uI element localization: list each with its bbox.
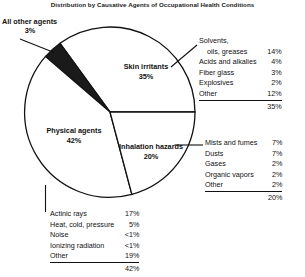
breakdown-skin-irritants: Solvents, oils, greases 14% Acids and al… (199, 36, 282, 112)
breakdown-row-value: 12% (262, 89, 282, 100)
breakdown-row-value: 5% (119, 220, 139, 231)
breakdown-row-label: Organic vapors (205, 170, 262, 181)
breakdown-row-label: Explosives (199, 78, 262, 89)
table-row: Gases 2% (205, 159, 282, 170)
table-row: Acids and alkalies 4% (199, 57, 282, 68)
table-row: Explosives 2% (199, 78, 282, 89)
breakdown-row-value: 14% (262, 47, 282, 58)
breakdown-total-label (50, 262, 119, 274)
breakdown-row-value (262, 36, 282, 47)
slice-label-physical-agents-value: 42% (33, 136, 115, 146)
callout-all-other-agents-name: All other agents (2, 17, 72, 26)
slice-label-physical-agents: Physical agents 42% (33, 126, 115, 145)
breakdown-row-label: Other (199, 89, 262, 100)
breakdown-row-label: Other (205, 180, 262, 191)
breakdown-row-value: <1% (119, 230, 139, 241)
slice-label-inhalation-hazards-name: Inhalation hazards (113, 142, 189, 152)
breakdown-row-label: Actinic rays (50, 209, 119, 220)
callout-label-all-other-agents: All other agents 3% (2, 17, 72, 36)
breakdown-total-label (199, 100, 262, 112)
breakdown-row-value: 17% (119, 209, 139, 220)
table-row: Dusts 7% (205, 149, 282, 160)
table-row: Other 19% (50, 251, 139, 262)
breakdown-total-value: 42% (119, 262, 139, 274)
breakdown-row-value: 7% (262, 149, 282, 160)
breakdown-row-value: 2% (262, 159, 282, 170)
breakdown-row-value: 2% (262, 78, 282, 89)
slice-label-skin-irritants-value: 35% (106, 72, 186, 82)
breakdown-skin-irritants-table: Solvents, oils, greases 14% Acids and al… (199, 36, 282, 112)
breakdown-row-value: 2% (262, 180, 282, 191)
breakdown-row-label: Dusts (205, 149, 262, 160)
breakdown-row-value: 19% (119, 251, 139, 262)
table-row: Organic vapors 2% (205, 170, 282, 181)
slice-label-physical-agents-name: Physical agents (33, 126, 115, 136)
breakdown-row-value: 2% (262, 170, 282, 181)
breakdown-row-label: Noise (50, 230, 119, 241)
breakdown-physical-agents-table: Actinic rays 17% Heat, cold, pressure 5%… (50, 209, 139, 275)
breakdown-row-value: 4% (262, 57, 282, 68)
table-row: Heat, cold, pressure 5% (50, 220, 139, 231)
breakdown-total-label (205, 191, 262, 203)
breakdown-total-row: 20% (205, 191, 282, 203)
breakdown-row-value: 7% (262, 138, 282, 149)
slice-label-skin-irritants: Skin irritants 35% (106, 62, 186, 81)
breakdown-row-label: Acids and alkalies (199, 57, 262, 68)
table-row: Solvents, (199, 36, 282, 47)
breakdown-row-label: Other (50, 251, 119, 262)
breakdown-inhalation-hazards: Mists and fumes 7% Dusts 7% Gases 2% Org… (205, 138, 282, 204)
table-row: Other 12% (199, 89, 282, 100)
breakdown-row-label: Solvents, (199, 36, 262, 47)
table-row: oils, greases 14% (199, 47, 282, 58)
breakdown-row-label: Ionizing radiation (50, 241, 119, 252)
callout-all-other-agents-value: 3% (2, 26, 72, 35)
slice-label-inhalation-hazards-value: 20% (113, 152, 189, 162)
breakdown-row-label: oils, greases (199, 47, 262, 58)
table-row: Noise <1% (50, 230, 139, 241)
slice-label-inhalation-hazards: Inhalation hazards 20% (113, 142, 189, 161)
breakdown-row-value: <1% (119, 241, 139, 252)
breakdown-row-label: Heat, cold, pressure (50, 220, 119, 231)
table-row: Other 2% (205, 180, 282, 191)
table-row: Actinic rays 17% (50, 209, 139, 220)
breakdown-row-value: 3% (262, 68, 282, 79)
pie-chart-figure: Distribution by Causative Agents of Occu… (0, 0, 305, 277)
breakdown-inhalation-hazards-table: Mists and fumes 7% Dusts 7% Gases 2% Org… (205, 138, 282, 204)
breakdown-total-value: 20% (262, 191, 282, 203)
leader-line-all-other-agents (20, 39, 54, 53)
breakdown-total-row: 35% (199, 100, 282, 112)
breakdown-total-row: 42% (50, 262, 139, 274)
table-row: Mists and fumes 7% (205, 138, 282, 149)
breakdown-row-label: Gases (205, 159, 262, 170)
breakdown-row-label: Fiber glass (199, 68, 262, 79)
breakdown-row-label: Mists and fumes (205, 138, 262, 149)
table-row: Ionizing radiation <1% (50, 241, 139, 252)
breakdown-physical-agents: Actinic rays 17% Heat, cold, pressure 5%… (50, 209, 139, 275)
table-row: Fiber glass 3% (199, 68, 282, 79)
breakdown-total-value: 35% (262, 100, 282, 112)
slice-label-skin-irritants-name: Skin irritants (106, 62, 186, 72)
